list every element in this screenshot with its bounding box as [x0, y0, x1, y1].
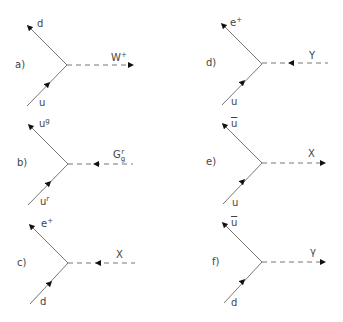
particle-label-bottom: ur: [40, 197, 49, 207]
panel-label-f: f): [212, 257, 219, 267]
fermion-line-bottom: [222, 64, 262, 105]
particle-label-top: ug: [39, 119, 50, 129]
fermion-line-top: [223, 25, 262, 64]
particle-label-bottom: d: [231, 298, 237, 308]
fermion-line-top: [31, 226, 68, 263]
diagram-a: [27, 27, 131, 106]
fermion-line-top: [224, 224, 262, 262]
fermion-line-top: [224, 125, 262, 163]
particle-label-top: e+: [41, 219, 53, 229]
particle-label-top: d: [37, 19, 43, 29]
diagram-e: [223, 125, 323, 204]
fermion-line-bottom: [30, 263, 68, 304]
boson-label: X: [116, 250, 123, 260]
particle-label-bottom: u: [231, 97, 237, 107]
panel-label-a: a): [15, 60, 25, 70]
diagram-f: [224, 224, 323, 303]
particle-label-top: u: [231, 119, 237, 129]
panel-label-e: e): [206, 157, 216, 167]
panel-label-d: d): [206, 58, 216, 68]
fermion-line-top: [29, 27, 67, 65]
particle-label-bottom: u: [232, 198, 238, 208]
diagram-b: [28, 126, 133, 205]
feynman-diagrams: [0, 0, 343, 322]
panel-label-b: b): [17, 158, 27, 168]
panel-label-c: c): [17, 258, 26, 268]
boson-label: γ: [310, 247, 316, 257]
particle-label-top: e+: [230, 18, 242, 28]
boson-label: X: [308, 149, 315, 159]
boson-label: W+: [111, 53, 127, 63]
fermion-line-bottom: [224, 262, 262, 303]
particle-label-top: u: [231, 218, 237, 228]
boson-label: Y: [309, 51, 315, 61]
fermion-line-bottom: [223, 163, 262, 204]
diagram-c: [30, 226, 135, 304]
particle-label-bottom: u: [39, 98, 45, 108]
fermion-line-bottom: [27, 65, 67, 106]
boson-label: Ggr: [113, 150, 124, 160]
fermion-line-top: [30, 126, 68, 164]
diagram-d: [222, 25, 328, 105]
particle-label-bottom: d: [40, 297, 46, 307]
